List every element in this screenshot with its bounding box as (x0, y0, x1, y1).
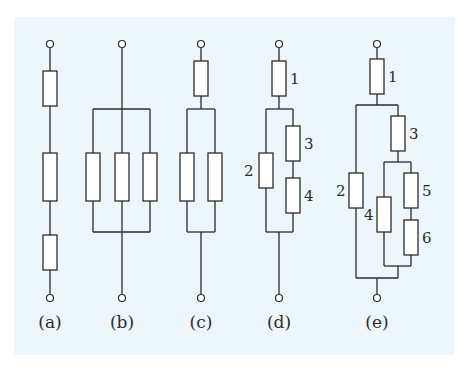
resistor-1 (370, 59, 384, 94)
label-5: 5 (422, 182, 432, 200)
resistor-6 (404, 220, 418, 255)
resistor-3 (391, 116, 405, 151)
terminal-bottom (374, 295, 381, 302)
terminal-bottom (119, 295, 126, 302)
resistor (43, 71, 57, 106)
circuit-e: 1 2 3 4 5 6 (e) (336, 41, 432, 333)
terminal-top (119, 41, 126, 48)
label-2: 2 (336, 182, 346, 200)
resistor-3 (286, 126, 300, 161)
caption-d: (d) (267, 312, 291, 332)
terminal-bottom (276, 295, 283, 302)
resistor-5 (404, 173, 418, 208)
resistor-2 (349, 173, 363, 208)
circuit-c: (c) (180, 41, 222, 333)
caption-c: (c) (190, 312, 213, 332)
caption-e: (e) (365, 312, 388, 332)
circuit-a: (a) (38, 41, 61, 333)
terminal-top (198, 41, 205, 48)
resistor-2 (259, 153, 273, 188)
label-1: 1 (290, 70, 300, 88)
label-4: 4 (304, 187, 314, 205)
circuit-figure: (a) (b) ( (0, 0, 469, 371)
terminal-bottom (198, 295, 205, 302)
resistor (43, 235, 57, 270)
resistor (194, 61, 208, 96)
label-3: 3 (304, 135, 314, 153)
caption-b: (b) (110, 312, 134, 332)
resistor (180, 153, 194, 201)
label-4: 4 (364, 206, 374, 224)
label-3: 3 (409, 125, 419, 143)
circuit-diagrams: (a) (b) ( (0, 0, 469, 371)
resistor (143, 153, 157, 201)
terminal-top (276, 41, 283, 48)
label-2: 2 (244, 162, 254, 180)
resistor-4 (286, 178, 300, 213)
resistor (86, 153, 100, 201)
label-6: 6 (422, 229, 432, 247)
resistor-1 (272, 61, 286, 96)
terminal-top (374, 41, 381, 48)
terminal-top (47, 41, 54, 48)
resistor (208, 153, 222, 201)
circuit-b: (b) (86, 41, 157, 333)
label-1: 1 (388, 68, 398, 86)
resistor (115, 153, 129, 201)
caption-a: (a) (38, 312, 61, 332)
resistor-4 (377, 197, 391, 232)
circuit-d: 1 2 3 4 (d) (244, 41, 314, 333)
resistor (43, 153, 57, 201)
terminal-bottom (47, 295, 54, 302)
